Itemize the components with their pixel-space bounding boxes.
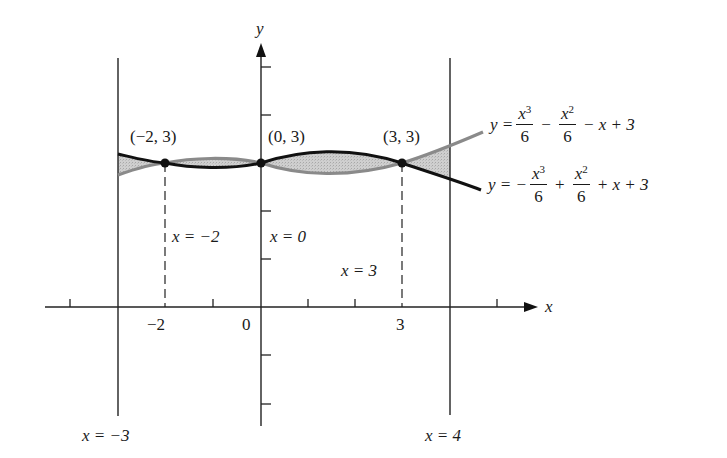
eq-prefix: y = xyxy=(490,115,513,135)
point-label-neg2: (−2, 3) xyxy=(130,128,176,145)
den: 6 xyxy=(534,185,543,205)
eq-rest: + x + 3 xyxy=(597,175,649,195)
exp: 2 xyxy=(568,103,574,115)
operator: − xyxy=(541,115,551,135)
intersection-point-neg2 xyxy=(161,159,170,168)
x-axis xyxy=(45,299,538,312)
num: x xyxy=(532,164,540,183)
intersection-point-3 xyxy=(398,159,407,168)
label-x-neg3: x = −3 xyxy=(82,427,130,444)
label-x-0: x = 0 xyxy=(270,228,306,245)
eq-rest: − x + 3 xyxy=(583,115,635,135)
point-label-0: (0, 3) xyxy=(268,128,305,145)
point-label-3: (3, 3) xyxy=(383,128,420,145)
tick-label-neg2: −2 xyxy=(147,316,165,333)
label-x-neg2: x = −2 xyxy=(172,228,220,245)
den: 6 xyxy=(521,125,530,145)
gray-curve-equation: y = x3 6 − x2 6 − x + 3 xyxy=(490,104,635,145)
den: 6 xyxy=(563,125,572,145)
tick-label-3: 3 xyxy=(396,316,405,333)
fraction-x2-6: x2 6 xyxy=(573,164,590,205)
y-axis-label: y xyxy=(256,20,264,37)
num: x xyxy=(518,104,526,123)
tick-label-0: 0 xyxy=(242,316,251,333)
exp: 2 xyxy=(582,163,588,175)
label-x-3: x = 3 xyxy=(341,262,377,279)
den: 6 xyxy=(577,185,586,205)
fraction-x3-6: x3 6 xyxy=(516,104,533,145)
black-curve-equation: y = − x3 6 + x2 6 + x + 3 xyxy=(488,164,648,205)
label-x-4: x = 4 xyxy=(425,427,461,444)
eq-prefix: y = − xyxy=(488,175,527,195)
x-axis-label: x xyxy=(545,298,553,315)
y-axis xyxy=(256,43,271,426)
fraction-x2-6: x2 6 xyxy=(559,104,576,145)
operator: + xyxy=(555,175,565,195)
graph-canvas xyxy=(0,0,727,458)
exp: 3 xyxy=(526,103,532,115)
exp: 3 xyxy=(540,163,546,175)
fraction-x3-6: x3 6 xyxy=(530,164,547,205)
intersection-point-0 xyxy=(257,159,266,168)
